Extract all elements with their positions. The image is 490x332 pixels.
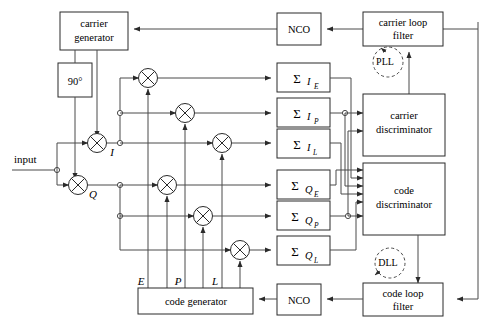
correlator-mixer-qe[interactable] [158,176,177,195]
prompt-label: P [174,275,182,287]
q-branch-label: Q [89,188,97,200]
integrator-subsubscript: P [313,117,319,126]
correlator-mixer-ql[interactable] [231,241,250,260]
i-branch-label: I [109,146,115,158]
integrator-sigma: Σ [293,137,301,152]
mixer-to-integrator-links [158,78,272,250]
correlator-mixer-il[interactable] [213,134,232,153]
nco-bottom-label: NCO [288,295,311,306]
integrator-subscript: I [306,142,311,153]
integrator-sigma: Σ [291,209,299,224]
carrier-generator-label-line2: generator [74,32,114,43]
integrator-sigma: Σ [293,71,301,86]
carrier-discriminator-label-line2: discriminator [376,124,432,135]
integrator-subsubscript: P [313,221,319,230]
carrier-generator-block[interactable]: carrier generator [60,12,128,50]
code-discriminator-label-line1: code [394,185,414,196]
tracking-loop-diagram: carrier generator NCO carrier loop filte… [0,0,490,332]
integrator-subscript: I [306,76,311,87]
nco-top-block[interactable]: NCO [277,13,321,45]
carrier-generator-label-line1: carrier [80,18,108,29]
phase-shift-block[interactable]: 90° [58,63,92,97]
feedback-bus [443,22,478,299]
correlator-mixer-ie[interactable] [139,69,158,88]
code-loop-filter-label-line1: code loop [382,288,423,299]
correlator-mixer-ip[interactable] [176,104,195,123]
carrier-loop-filter-label-line1: carrier loop [379,17,428,28]
carrier-loop-filter-block[interactable]: carrier loop filter [363,12,443,46]
integrator-ie[interactable]: Σ I E [277,63,330,92]
integrator-subscript: Q [305,215,313,226]
i-distribution-rail [107,78,214,146]
integrator-sigma: Σ [293,106,301,121]
carrier-discriminator-block[interactable]: carrier discriminator [363,94,445,156]
correlator-mixer-qp[interactable] [194,207,213,226]
code-generator-block[interactable]: code generator [138,288,253,314]
pll-loop-indicator: PLL [373,47,403,77]
code-generator-label: code generator [165,296,228,307]
integrator-subsubscript: L [313,256,318,265]
integrator-ql[interactable]: Σ Q L [277,236,330,265]
carrier-loop-filter-label-line2: filter [393,30,414,41]
code-loop-filter-block[interactable]: code loop filter [363,283,443,316]
code-loop-filter-label-line2: filter [393,301,414,312]
input-label: input [14,153,37,165]
dll-label: DLL [378,257,397,268]
integrator-subsubscript: E [313,82,319,91]
integrator-subscript: Q [305,250,313,261]
integrator-subscript: I [306,111,311,122]
late-label: L [211,275,218,287]
integrator-subsubscript: E [313,190,319,199]
i-mixer[interactable]: I [88,134,116,159]
code-discriminator-block[interactable]: code discriminator [363,163,445,235]
integrator-qe[interactable]: Σ Q E [277,170,330,199]
nco-bottom-block[interactable]: NCO [277,284,321,315]
dll-loop-indicator: DLL [375,248,405,278]
integrator-subsubscript: L [312,148,317,157]
nco-top-label: NCO [288,24,311,35]
integrator-output-routing [330,78,363,250]
integrator-il[interactable]: Σ I L [277,129,330,158]
pll-label: PLL [376,56,394,67]
carrier-discriminator-label-line1: carrier [390,110,418,121]
integrator-sigma: Σ [291,178,299,193]
code-discriminator-label-line2: discriminator [376,199,432,210]
phase-shift-label: 90° [68,76,83,87]
integrator-subscript: Q [305,184,313,195]
q-mixer[interactable]: Q [69,176,98,201]
early-label: E [137,275,145,287]
integrator-qp[interactable]: Σ Q P [277,201,330,230]
integrator-ip[interactable]: Σ I P [277,98,330,127]
integrator-sigma: Σ [291,244,299,259]
